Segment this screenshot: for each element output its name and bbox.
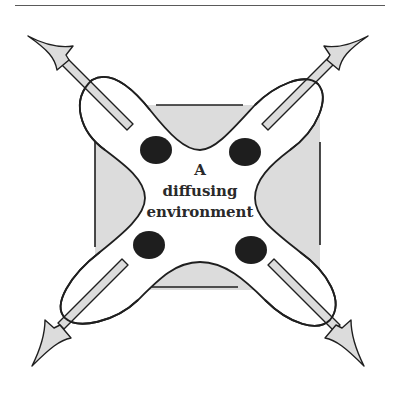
dot-bottom-right (235, 236, 267, 264)
dot-bottom-left (133, 231, 165, 259)
label-line-1: A (140, 160, 260, 181)
diagram-label: A diffusing environment (140, 160, 260, 223)
label-line-2: diffusing (140, 181, 260, 202)
label-line-3: environment (140, 202, 260, 223)
